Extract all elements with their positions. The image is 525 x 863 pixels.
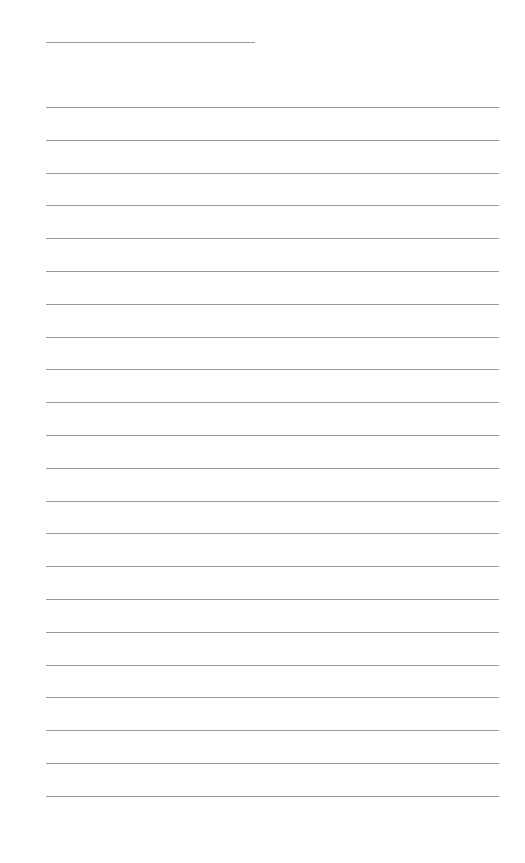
ruled-line <box>46 205 499 206</box>
ruled-line <box>46 304 499 305</box>
lined-paper-page <box>0 0 525 863</box>
ruled-line <box>46 337 499 338</box>
ruled-line <box>46 435 499 436</box>
ruled-line <box>46 697 499 698</box>
ruled-line <box>46 632 499 633</box>
ruled-line <box>46 796 499 797</box>
ruled-line <box>46 402 499 403</box>
ruled-line <box>46 271 499 272</box>
ruled-line <box>46 763 499 764</box>
ruled-line <box>46 468 499 469</box>
ruled-line <box>46 140 499 141</box>
ruled-line <box>46 369 499 370</box>
ruled-line <box>46 665 499 666</box>
ruled-line <box>46 599 499 600</box>
ruled-line <box>46 501 499 502</box>
ruled-line <box>46 566 499 567</box>
ruled-line <box>46 730 499 731</box>
ruled-line <box>46 173 499 174</box>
ruled-lines-container <box>46 0 499 863</box>
ruled-line <box>46 107 499 108</box>
ruled-line <box>46 533 499 534</box>
ruled-line <box>46 238 499 239</box>
